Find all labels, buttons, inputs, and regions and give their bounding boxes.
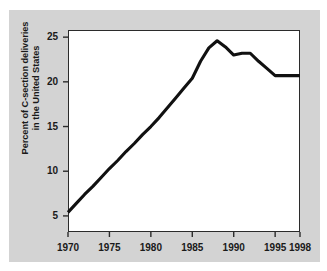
data-series-line	[68, 41, 300, 213]
x-tick-label: 1970	[48, 243, 88, 253]
figure: Percent of C-section deliveries in the U…	[0, 0, 327, 271]
x-tick-label: 1985	[172, 243, 212, 253]
x-tick-marks	[68, 232, 300, 237]
y-tick-marks	[63, 37, 68, 216]
x-tick-label: 1998	[280, 243, 320, 253]
x-tick-label: 1990	[214, 243, 254, 253]
x-tick-label: 1980	[131, 243, 171, 253]
x-tick-label: 1975	[89, 243, 129, 253]
y-tick-label: 5	[32, 211, 58, 221]
y-tick-label: 10	[32, 166, 58, 176]
y-tick-label: 15	[32, 122, 58, 132]
y-tick-label: 25	[32, 32, 58, 42]
y-tick-label: 20	[32, 77, 58, 87]
